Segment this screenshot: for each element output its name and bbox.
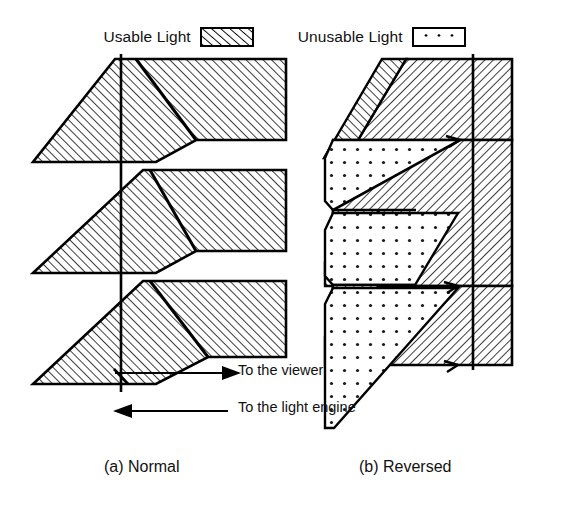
caption-reversed: (b) Reversed	[359, 458, 451, 476]
legend-item-usable-light: Usable Light	[103, 27, 253, 47]
legend-label-usable-light: Usable Light	[103, 28, 190, 46]
usable-light-region	[33, 59, 286, 162]
legend-item-unusable-light: Unusable Light	[298, 27, 466, 47]
direction-arrows	[113, 366, 241, 418]
to-the-viewer-label: To the viewer	[238, 362, 323, 378]
dotted-swatch	[412, 27, 466, 47]
diagonal-hatch-swatch	[200, 27, 254, 47]
caption-normal: (a) Normal	[104, 458, 180, 476]
legend-label-unusable-light: Unusable Light	[298, 28, 403, 46]
normal-prism-diagram	[33, 54, 286, 392]
normal-tooth-1	[33, 59, 286, 162]
to-the-light-engine-label: To the light engine	[238, 399, 356, 415]
to-the-light-engine-arrow	[113, 404, 228, 418]
prism-diagrams-svg	[0, 52, 569, 452]
normal-tooth-2	[33, 170, 286, 273]
legend: Usable Light Unusable Light	[0, 22, 569, 52]
reversed-prism-diagram	[324, 54, 512, 428]
figure-root: Usable Light Unusable Light	[0, 0, 569, 519]
